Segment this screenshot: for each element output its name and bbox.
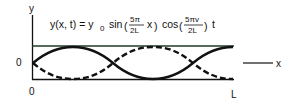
wave-equation: y(x, t) = y 0 sin ( 5π 2L x ) cos ( 5πv … [50, 15, 215, 35]
equation-lhs-subscript: 0 [100, 24, 105, 33]
cos-open-paren: ( [179, 20, 183, 32]
cos-variable: t [212, 18, 215, 30]
x-zero-label: 0 [29, 86, 35, 97]
cos-close-paren: ) [204, 20, 208, 32]
sin-fraction-numerator: 5π [130, 15, 140, 24]
standing-wave-diagram: y 0 0 L x y(x, t) = y 0 sin ( 5π 2L x ) … [0, 0, 295, 107]
equation-sin-label: sin [109, 18, 123, 30]
x-end-label-L: L [231, 89, 237, 100]
equation-lhs: y(x, t) = y [50, 18, 94, 30]
x-axis-label: x [276, 58, 281, 69]
equation-cos-label: cos [162, 18, 178, 30]
sin-variable: x [147, 18, 153, 30]
cos-fraction-numerator: 5πv [185, 15, 199, 24]
sin-close-paren: ) [154, 20, 158, 32]
cos-fraction-denominator: 2L [188, 26, 197, 35]
sin-open-paren: ( [124, 20, 128, 32]
y-axis-label: y [29, 3, 34, 14]
y-zero-label: 0 [16, 57, 22, 68]
sin-fraction-denominator: 2L [130, 26, 139, 35]
